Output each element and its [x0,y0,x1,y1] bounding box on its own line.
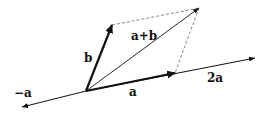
vector-diagram: b a+b a 2a −a [0,0,267,114]
label-neg-a: −a [14,86,32,100]
label-a-plus-b: a+b [131,29,157,43]
label-a: a [129,85,137,99]
dashed-side-top [112,8,199,25]
label-2a: 2a [207,71,223,85]
label-b: b [84,51,92,65]
dashed-side-right [175,8,199,73]
